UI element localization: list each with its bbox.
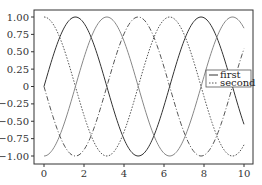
x-axis: 0246810 <box>41 164 251 179</box>
x-tick-label: 4 <box>121 168 127 179</box>
x-tick-label: 10 <box>238 168 251 179</box>
y-tick-label: −0.50 <box>0 116 29 127</box>
line-chart: 0246810 1.000.750.500.250−0.25−0.50−0.75… <box>0 0 262 185</box>
x-tick-label: 8 <box>201 168 207 179</box>
x-tick-label: 2 <box>81 168 87 179</box>
legend: first second <box>206 69 256 88</box>
x-tick-label: 0 <box>41 168 47 179</box>
y-tick-label: 1.00 <box>7 12 29 23</box>
y-tick-label: 0.50 <box>7 46 29 57</box>
legend-label-second: second <box>220 77 256 88</box>
y-tick-label: −1.00 <box>0 151 29 162</box>
y-tick-label: 0.75 <box>7 29 29 40</box>
y-tick-label: 0 <box>23 81 29 92</box>
x-tick-label: 6 <box>161 168 167 179</box>
y-tick-label: 0.25 <box>7 64 29 75</box>
y-tick-label: −0.75 <box>0 133 29 144</box>
y-axis: 1.000.750.500.250−0.25−0.50−0.75−1.00 <box>0 12 34 162</box>
y-tick-label: −0.25 <box>0 98 29 109</box>
